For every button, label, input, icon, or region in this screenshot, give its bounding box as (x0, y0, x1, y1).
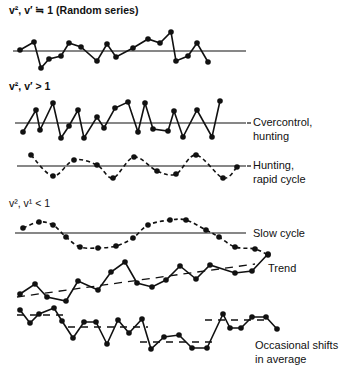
data-point (94, 58, 100, 64)
data-point (139, 316, 145, 322)
data-point (33, 107, 39, 113)
data-point (126, 330, 132, 336)
data-point (77, 244, 83, 250)
data-point (70, 335, 76, 341)
data-point (234, 164, 240, 170)
data-point (145, 36, 151, 42)
data-point (78, 44, 84, 50)
data-point (66, 123, 72, 129)
data-point (194, 40, 200, 46)
data-point (185, 53, 191, 59)
data-point (46, 56, 52, 62)
data-point (238, 325, 244, 331)
data-point (50, 222, 56, 228)
data-point (32, 281, 38, 287)
data-point (58, 135, 64, 141)
data-point (50, 173, 56, 179)
data-point (50, 100, 56, 106)
data-point (37, 127, 43, 133)
label-trend: Trend (268, 261, 296, 275)
data-point (104, 341, 110, 347)
data-point (183, 217, 189, 223)
series-line-random-series (20, 32, 208, 68)
data-point (20, 129, 26, 135)
data-point (227, 325, 233, 331)
data-point (20, 225, 26, 231)
data-point (207, 262, 213, 268)
data-point (81, 319, 87, 325)
data-point (157, 40, 163, 46)
data-point (110, 175, 116, 181)
data-point (28, 152, 34, 158)
data-point (134, 280, 140, 286)
data-point (209, 134, 215, 140)
data-point (104, 41, 110, 47)
data-point (154, 168, 160, 174)
data-point (205, 59, 211, 65)
data-point (177, 263, 183, 269)
data-point (193, 152, 199, 158)
data-point (113, 243, 119, 249)
data-point (217, 98, 223, 104)
label-overcontrol: Cvercontrol, hunting (253, 115, 312, 143)
data-point (204, 345, 210, 351)
data-point (148, 346, 154, 352)
data-point (113, 54, 119, 60)
heading-random-series: v², v′ ≒ 1 (Random series) (9, 4, 138, 16)
data-point (274, 326, 280, 332)
data-point (101, 125, 107, 131)
data-point (130, 45, 136, 51)
heading-v-greater-than-1: v², v′ > 1 (9, 80, 50, 92)
data-point (36, 219, 42, 225)
data-point (161, 334, 167, 340)
data-point (122, 259, 128, 265)
label-overcontrol-line2: hunting (253, 129, 312, 143)
data-point (163, 277, 169, 283)
data-point (44, 294, 50, 300)
data-point (173, 171, 179, 177)
data-point (75, 107, 81, 113)
label-shifts-line2: in average (255, 352, 338, 366)
data-point (66, 40, 72, 46)
data-point (112, 105, 118, 111)
data-point (93, 319, 99, 325)
data-point (232, 270, 238, 276)
label-shifts-line1: Occasional shifts (255, 338, 338, 352)
data-point (173, 58, 179, 64)
data-point (17, 291, 23, 297)
label-overcontrol-line1: Cvercontrol, (253, 115, 312, 129)
data-point (81, 135, 87, 141)
data-point (265, 251, 271, 257)
data-point (203, 227, 209, 233)
data-point (150, 126, 156, 132)
data-point (194, 107, 200, 113)
label-hunting-line2: rapid cycle (253, 172, 306, 186)
series-line-trend (20, 254, 268, 301)
data-point (131, 154, 137, 160)
data-point (249, 268, 255, 274)
data-point (168, 29, 174, 35)
label-hunting: Hunting, rapid cycle (253, 158, 306, 186)
data-point (193, 276, 199, 282)
data-point (176, 332, 182, 338)
data-point (63, 298, 69, 304)
data-point (189, 345, 195, 351)
data-point (59, 318, 65, 324)
data-point (171, 108, 177, 114)
heading-v-less-than-1: v², v¹ < 1 (9, 197, 50, 209)
data-point (58, 53, 64, 59)
data-point (95, 245, 101, 251)
series-line-overcontrol-hunting (23, 101, 220, 138)
data-point (95, 287, 101, 293)
data-point (108, 269, 114, 275)
data-point (252, 246, 258, 252)
data-point (115, 317, 121, 323)
label-occasional-shifts: Occasional shifts in average (255, 338, 338, 366)
data-point (38, 65, 44, 71)
label-slow-cycle: Slow cycle (253, 226, 305, 240)
data-point (165, 128, 171, 134)
data-point (145, 222, 151, 228)
data-point (75, 278, 81, 284)
data-point (167, 217, 173, 223)
data-point (130, 235, 136, 241)
